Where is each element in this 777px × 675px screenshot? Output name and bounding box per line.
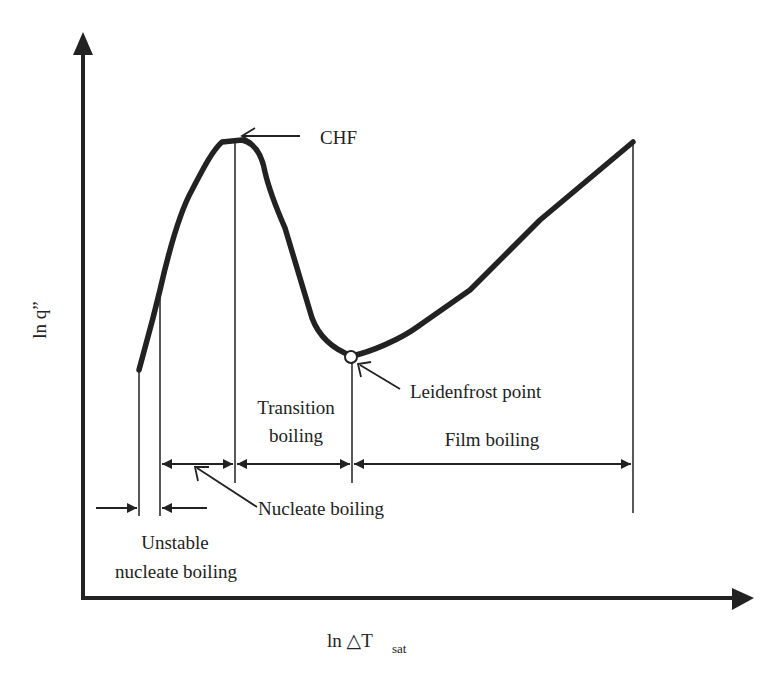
region-span-arrows <box>162 459 631 469</box>
y-axis-arrowhead-icon <box>73 32 93 55</box>
unstable-span-arrows <box>96 503 207 513</box>
nucleate-left-arrowhead-icon <box>162 459 172 469</box>
nucleate-pointer <box>195 467 257 507</box>
boiling-curve <box>139 140 633 370</box>
x-axis-arrowhead-icon <box>732 588 754 610</box>
film-boiling-label: Film boiling <box>445 429 540 450</box>
nucleate-right-arrowhead-icon <box>223 459 233 469</box>
film-left-arrowhead-icon <box>354 459 364 469</box>
x-axis <box>81 588 754 610</box>
chf-label: CHF <box>320 127 357 148</box>
unstable-left-arrowhead-icon <box>127 503 137 513</box>
transition-left-arrowhead-icon <box>237 459 247 469</box>
x-axis-label: ln △T sat <box>327 630 407 656</box>
y-axis-label: ln q” <box>29 301 50 338</box>
leidenfrost-marker <box>345 351 357 363</box>
unstable-label-line2: nucleate boiling <box>115 561 237 582</box>
leidenfrost-label: Leidenfrost point <box>410 381 542 402</box>
transition-right-arrowhead-icon <box>340 459 350 469</box>
region-guide-lines <box>139 142 633 516</box>
boiling-curve-diagram: CHF Leidenfrost point Transition boiling… <box>0 0 777 675</box>
film-right-arrowhead-icon <box>621 459 631 469</box>
x-axis-label-main: ln △T <box>327 630 373 651</box>
transition-label-line1: Transition <box>257 397 335 418</box>
unstable-right-arrowhead-icon <box>162 503 172 513</box>
nucleate-boiling-label: Nucleate boiling <box>258 498 385 519</box>
x-axis-label-subscript: sat <box>392 641 407 656</box>
unstable-label-line1: Unstable <box>141 532 209 553</box>
y-axis <box>73 32 93 600</box>
leidenfrost-pointer <box>358 362 400 389</box>
transition-label-line2: boiling <box>269 425 323 446</box>
chf-pointer <box>242 128 300 142</box>
